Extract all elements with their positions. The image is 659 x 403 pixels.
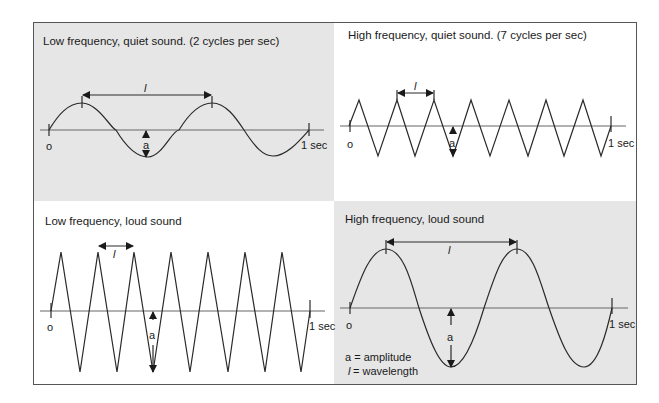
triangle-wave-bl xyxy=(51,252,310,372)
amplitude-label-tl: a xyxy=(143,139,150,151)
end-label-bl: 1 sec xyxy=(309,320,336,332)
origin-label-tl: o xyxy=(46,140,52,152)
end-label-tr: 1 sec xyxy=(608,137,635,149)
triangle-wave-tr xyxy=(349,100,611,156)
wavelength-label-tl: l xyxy=(144,82,147,94)
origin-label-br: o xyxy=(346,319,352,331)
end-label-br: 1 sec xyxy=(609,318,636,330)
amplitude-label-bl: a xyxy=(149,329,156,341)
legend-amplitude: a = amplitude xyxy=(345,351,411,363)
wave-group-bl xyxy=(40,246,325,372)
legend-wavelength-symbol: l xyxy=(348,365,351,377)
waves-svg: l a o 1 sec l a o 1 sec l a o 1 sec xyxy=(0,0,659,403)
wave-group-br xyxy=(340,240,628,367)
wavelength-label-bl: l xyxy=(113,248,116,260)
wavelength-label-tr: l xyxy=(414,80,417,92)
end-label-tl: 1 sec xyxy=(301,139,328,151)
legend-wavelength: = wavelength xyxy=(353,365,418,377)
origin-label-tr: o xyxy=(347,138,353,150)
amplitude-label-br: a xyxy=(447,331,454,343)
wavelength-label-br: l xyxy=(448,244,451,256)
wave-group-tr xyxy=(340,90,626,156)
origin-label-bl: o xyxy=(47,321,53,333)
wave-group-tl xyxy=(40,95,324,157)
amplitude-label-tr: a xyxy=(449,137,456,149)
